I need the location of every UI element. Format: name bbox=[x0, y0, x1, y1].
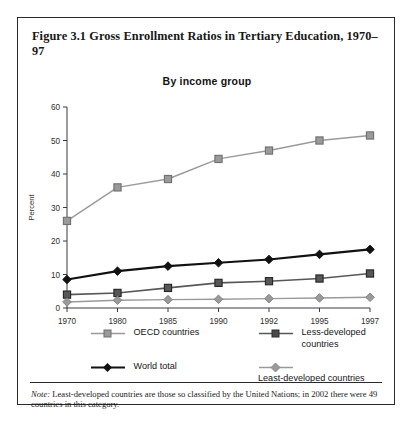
y-tick-label: 50 bbox=[51, 137, 61, 146]
legend-item-less-developed-countries: Less-developed countries bbox=[258, 327, 386, 350]
series-marker bbox=[214, 258, 223, 267]
legend-swatch-oecd-countries bbox=[90, 328, 126, 339]
figure-page: Figure 3.1 Gross Enrollment Ratios in Te… bbox=[0, 0, 413, 422]
series-marker bbox=[63, 298, 72, 307]
series-marker bbox=[214, 295, 223, 304]
series-marker bbox=[164, 262, 173, 271]
series-marker bbox=[164, 175, 171, 182]
legend-item-oecd-countries: OECD countries bbox=[90, 327, 240, 339]
series-marker bbox=[265, 278, 272, 285]
series-marker bbox=[265, 255, 274, 264]
y-tick-label: 60 bbox=[51, 103, 61, 112]
note-text: Least-developed countries are those so c… bbox=[31, 389, 377, 409]
series-marker bbox=[366, 132, 373, 139]
y-tick-label: 40 bbox=[51, 170, 61, 179]
y-tick-label: 10 bbox=[51, 271, 61, 280]
figure-title: Figure 3.1 Gross Enrollment Ratios in Te… bbox=[32, 29, 380, 58]
series-marker bbox=[215, 155, 222, 162]
legend-swatch-less-developed-countries bbox=[258, 328, 294, 339]
series-marker bbox=[315, 294, 324, 303]
legend-label-world-total: World total bbox=[134, 361, 177, 373]
series-marker bbox=[366, 293, 375, 302]
series-marker bbox=[265, 147, 272, 154]
legend-item-least-developed-countries: Least-developed countries bbox=[258, 361, 398, 384]
series-marker bbox=[63, 275, 72, 284]
y-tick-label: 30 bbox=[51, 204, 61, 213]
legend-item-world-total: World total bbox=[90, 361, 240, 373]
series-marker bbox=[366, 270, 373, 277]
note-label: Note: bbox=[31, 389, 50, 399]
note-divider bbox=[30, 382, 382, 383]
series-marker bbox=[63, 217, 70, 224]
legend-label-less-developed-countries: Less-developed countries bbox=[302, 327, 382, 350]
series-line bbox=[67, 135, 370, 220]
series-marker bbox=[315, 250, 324, 259]
series-marker bbox=[113, 296, 122, 305]
legend-label-oecd-countries: OECD countries bbox=[134, 327, 200, 339]
y-tick-label: 20 bbox=[51, 237, 61, 246]
chart-plot-area: 0102030405060197019801985199019921995199… bbox=[18, 84, 396, 329]
legend-swatch-world-total bbox=[90, 362, 126, 373]
y-tick-label: 0 bbox=[55, 304, 60, 313]
figure-container: Figure 3.1 Gross Enrollment Ratios in Te… bbox=[17, 17, 395, 405]
y-axis-title: Percent bbox=[27, 194, 36, 221]
series-marker bbox=[164, 284, 171, 291]
series-marker bbox=[366, 245, 375, 254]
series-marker bbox=[113, 267, 122, 276]
line-chart: 0102030405060197019801985199019921995199… bbox=[18, 84, 396, 329]
series-marker bbox=[164, 295, 173, 304]
series-marker bbox=[265, 294, 274, 303]
series-marker bbox=[316, 137, 323, 144]
series-marker bbox=[316, 275, 323, 282]
legend-swatch-least-developed-countries bbox=[258, 362, 294, 373]
figure-note: Note: Least-developed countries are thos… bbox=[31, 389, 383, 410]
chart-legend: OECD countries Less-developed countries bbox=[18, 323, 396, 383]
series-marker bbox=[114, 184, 121, 191]
series-marker bbox=[215, 279, 222, 286]
